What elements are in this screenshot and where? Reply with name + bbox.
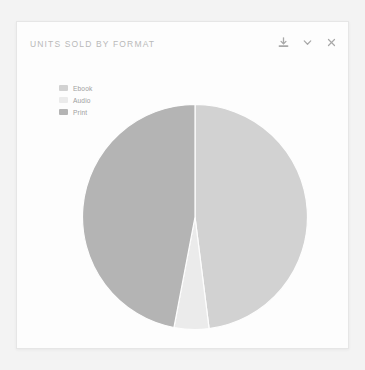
card-header: UNITS SOLD BY FORMAT (17, 22, 348, 58)
pie-chart-area (17, 22, 348, 348)
chevron-down-icon (301, 36, 314, 49)
page-title: UNITS SOLD BY FORMAT (30, 39, 155, 49)
pie-slice-group (82, 104, 307, 329)
legend-item[interactable]: Ebook (59, 83, 92, 93)
pie-chart[interactable] (82, 104, 308, 330)
collapse-button[interactable] (301, 36, 314, 49)
legend-swatch-print (59, 109, 68, 115)
pie-slice[interactable] (195, 105, 307, 329)
pie-slice[interactable] (82, 104, 195, 327)
download-icon (277, 36, 290, 49)
legend-swatch-ebook (59, 85, 68, 91)
card-toolbar (277, 36, 338, 49)
legend-swatch-audio (59, 97, 68, 103)
download-button[interactable] (277, 36, 290, 49)
screen-root: UNITS SOLD BY FORMAT (0, 0, 365, 370)
legend-label: Audio (73, 97, 91, 104)
close-icon (325, 36, 338, 49)
legend-label: Ebook (73, 85, 92, 92)
chart-card: UNITS SOLD BY FORMAT (16, 21, 349, 349)
close-button[interactable] (325, 36, 338, 49)
